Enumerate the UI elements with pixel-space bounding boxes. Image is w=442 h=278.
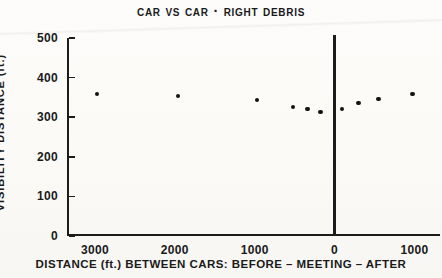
y-axis-label: VISIBILITY DISTANCE (ft.): [0, 54, 6, 211]
y-tick: [69, 37, 75, 39]
data-point: [340, 107, 344, 111]
y-tick-label: 300: [37, 110, 58, 124]
y-tick-label: 100: [37, 189, 58, 203]
x-tick-label: 2000: [161, 243, 189, 257]
x-axis-line: [67, 234, 440, 236]
data-point: [255, 98, 259, 102]
x-tick-label: 1000: [241, 243, 269, 257]
y-axis-line: [67, 38, 69, 236]
x-axis-label: DISTANCE (ft.) BETWEEN CARS: BEFORE – ME…: [0, 258, 442, 270]
y-tick: [69, 156, 75, 158]
y-tick-label: 400: [37, 71, 58, 85]
data-point: [356, 101, 360, 105]
meeting-reference-line: [333, 35, 335, 236]
chart-title: Car vs Car · Right Debris: [0, 3, 442, 19]
y-tick-label: 0: [51, 229, 58, 243]
y-tick-label: 500: [37, 31, 58, 45]
data-point: [305, 107, 309, 111]
x-tick-label: 0: [331, 243, 338, 257]
data-point: [176, 94, 180, 98]
chart-figure: Car vs Car · Right Debris VISIBILITY DIS…: [0, 0, 442, 278]
y-tick: [69, 196, 75, 198]
y-tick: [69, 116, 75, 118]
x-tick-label: 3000: [81, 243, 109, 257]
data-point: [318, 110, 322, 114]
data-point: [376, 97, 380, 101]
data-point: [291, 105, 295, 109]
data-point: [95, 92, 99, 96]
x-tick-label: 1000: [400, 243, 428, 257]
y-tick: [69, 77, 75, 79]
data-point: [410, 92, 414, 96]
y-tick-label: 200: [37, 150, 58, 164]
plot-area: 0100200300400500 30002000100001000: [67, 38, 440, 236]
y-tick: [69, 235, 75, 237]
